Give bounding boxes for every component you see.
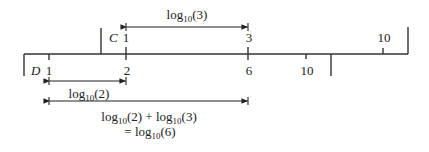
slide-rule-diagram <box>0 0 429 152</box>
c-tick-label: 1 <box>123 31 130 44</box>
label-log2-plus-log3: log10(2) + log10(3) <box>101 110 196 123</box>
c-tick-label: 10 <box>378 31 391 44</box>
d-tick-label: 6 <box>246 64 253 77</box>
scale-label-c: C <box>109 31 118 44</box>
label-equals-log6: = log10(6) <box>124 125 175 138</box>
label-log3: log10(3) <box>167 8 208 21</box>
d-tick-label: 2 <box>124 64 131 77</box>
c-tick-label: 3 <box>246 31 253 44</box>
label-log2: log10(2) <box>69 87 110 100</box>
d-tick-label: 10 <box>301 64 314 77</box>
d-tick-label: 1 <box>46 64 53 77</box>
scale-label-d: D <box>31 64 40 77</box>
